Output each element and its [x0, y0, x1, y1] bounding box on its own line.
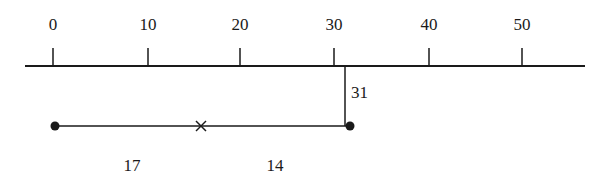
- part-label-left: 17: [124, 157, 141, 174]
- axis-ticks: [53, 48, 522, 66]
- segment-start-dot: [51, 122, 60, 131]
- tick-label-50: 50: [514, 16, 531, 33]
- marker-label-31: 31: [351, 84, 368, 101]
- tick-label-40: 40: [421, 16, 438, 33]
- tick-label-10: 10: [140, 16, 157, 33]
- tick-label-0: 0: [49, 16, 58, 33]
- part-label-right: 14: [267, 157, 284, 174]
- segment-end-dot: [346, 122, 355, 131]
- tick-label-30: 30: [326, 16, 343, 33]
- number-line-diagram: 0 10 20 30 40 50 31 17 14: [0, 0, 611, 189]
- tick-label-20: 20: [232, 16, 249, 33]
